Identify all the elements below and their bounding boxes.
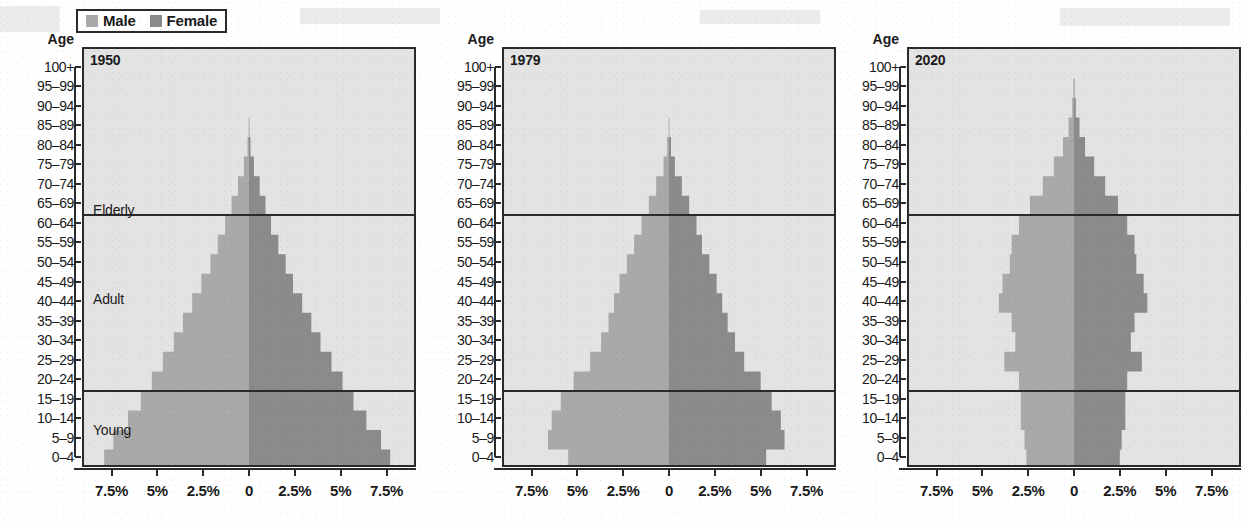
legend-item-male[interactable]: Male	[86, 13, 136, 28]
x-tick-mark	[714, 470, 716, 476]
y-tick-label: 95–99	[862, 78, 899, 94]
x-tick-mark	[576, 470, 578, 476]
y-axis-spine	[74, 67, 76, 457]
pyramid-shape-2020	[909, 49, 1239, 465]
x-tick-label: 7.5%	[1195, 482, 1228, 499]
x-tick-mark	[248, 470, 250, 476]
x-tick-label: 5%	[1155, 482, 1176, 499]
y-tick-label: 20–24	[862, 371, 899, 387]
y-tick-label: 25–29	[457, 352, 494, 368]
female-area	[1074, 59, 1147, 465]
male-area	[104, 59, 249, 465]
y-tick-label: 20–24	[457, 371, 494, 387]
y-tick-90–94: 90–94	[457, 98, 494, 114]
y-tick-5–9: 5–9	[472, 430, 494, 446]
y-tick-label: 30–34	[862, 332, 899, 348]
y-axis-1979: Age100+95–9990–9485–8980–8475–7970–7465–…	[444, 47, 494, 467]
page-smudge	[700, 10, 820, 24]
y-tick-90–94: 90–94	[862, 98, 899, 114]
y-tick-100+: 100+	[464, 59, 494, 75]
y-tick-80–84: 80–84	[457, 137, 494, 153]
y-tick-label: 85–89	[862, 117, 899, 133]
y-tick-label: 85–89	[37, 117, 74, 133]
x-tick-label: 5%	[750, 482, 771, 499]
y-tick-60–64: 60–64	[862, 215, 899, 231]
x-tick-mark	[981, 470, 983, 476]
y-axis-title: Age	[468, 31, 494, 47]
y-tick-label: 80–84	[37, 137, 74, 153]
x-tick-mark	[1165, 470, 1167, 476]
x-tick-label: 2.5%	[1012, 482, 1045, 499]
page-smudge	[0, 6, 60, 32]
legend: Male Female	[76, 9, 227, 33]
y-tick-label: 5–9	[52, 430, 74, 446]
y-tick-60–64: 60–64	[37, 215, 74, 231]
x-tick-label: 7.5%	[95, 482, 128, 499]
y-tick-label: 100+	[44, 59, 74, 75]
y-tick-40–44: 40–44	[457, 293, 494, 309]
y-tick-label: 40–44	[862, 293, 899, 309]
y-tick-label: 30–34	[37, 332, 74, 348]
y-tick-15–19: 15–19	[862, 391, 899, 407]
x-tick-mark	[202, 470, 204, 476]
y-tick-label: 10–14	[862, 410, 899, 426]
y-tick-45–49: 45–49	[457, 274, 494, 290]
y-tick-label: 45–49	[862, 274, 899, 290]
x-tick-mark	[806, 470, 808, 476]
y-tick-95–99: 95–99	[862, 78, 899, 94]
y-tick-75–79: 75–79	[862, 156, 899, 172]
y-tick-25–29: 25–29	[457, 352, 494, 368]
y-tick-label: 45–49	[37, 274, 74, 290]
x-tick-label: 2.5%	[278, 482, 311, 499]
y-tick-15–19: 15–19	[457, 391, 494, 407]
x-tick-label: 7.5%	[790, 482, 823, 499]
x-tick-label: 2.5%	[1103, 482, 1136, 499]
y-tick-label: 50–54	[457, 254, 494, 270]
y-tick-100+: 100+	[869, 59, 899, 75]
y-tick-85–89: 85–89	[862, 117, 899, 133]
panel-title: 1979	[510, 52, 540, 68]
x-tick-label: 7.5%	[920, 482, 953, 499]
y-tick-label: 45–49	[457, 274, 494, 290]
y-tick-95–99: 95–99	[457, 78, 494, 94]
pyramid-shape-1979	[504, 49, 834, 465]
y-tick-0–4: 0–4	[52, 449, 74, 465]
y-tick-label: 60–64	[37, 215, 74, 231]
legend-item-female[interactable]: Female	[150, 13, 218, 28]
group-divider-adult-young	[84, 390, 414, 392]
group-divider-adult-young	[909, 390, 1239, 392]
y-tick-label: 30–34	[457, 332, 494, 348]
y-tick-75–79: 75–79	[37, 156, 74, 172]
pyramid-shape-1950	[84, 49, 414, 465]
group-divider-elderly-adult	[909, 214, 1239, 216]
y-tick-60–64: 60–64	[457, 215, 494, 231]
y-axis-spine	[899, 67, 901, 457]
y-tick-label: 90–94	[457, 98, 494, 114]
y-tick-65–69: 65–69	[37, 195, 74, 211]
y-tick-label: 0–4	[877, 449, 899, 465]
y-tick-label: 75–79	[457, 156, 494, 172]
y-tick-75–79: 75–79	[457, 156, 494, 172]
y-tick-label: 50–54	[862, 254, 899, 270]
y-tick-label: 20–24	[37, 371, 74, 387]
x-tick-label: 2.5%	[607, 482, 640, 499]
y-tick-45–49: 45–49	[862, 274, 899, 290]
x-tick-mark	[294, 470, 296, 476]
x-tick-label: 7.5%	[370, 482, 403, 499]
y-tick-50–54: 50–54	[862, 254, 899, 270]
y-tick-label: 55–59	[457, 234, 494, 250]
x-tick-label: 5%	[972, 482, 993, 499]
y-tick-70–74: 70–74	[457, 176, 494, 192]
x-axis-line-1950	[74, 468, 416, 470]
y-tick-5–9: 5–9	[877, 430, 899, 446]
y-tick-label: 60–64	[862, 215, 899, 231]
y-tick-10–14: 10–14	[37, 410, 74, 426]
y-tick-label: 95–99	[37, 78, 74, 94]
y-tick-80–84: 80–84	[862, 137, 899, 153]
y-tick-35–39: 35–39	[457, 313, 494, 329]
y-tick-30–34: 30–34	[862, 332, 899, 348]
y-tick-15–19: 15–19	[37, 391, 74, 407]
x-tick-mark	[1211, 470, 1213, 476]
y-tick-10–14: 10–14	[457, 410, 494, 426]
x-tick-label: 5%	[147, 482, 168, 499]
